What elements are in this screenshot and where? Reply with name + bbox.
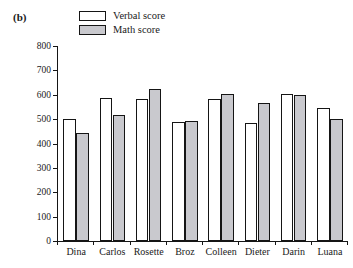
bar-math	[221, 94, 234, 241]
legend-swatch-math	[79, 25, 106, 35]
y-axis-tick	[53, 192, 57, 193]
bar-verbal	[317, 108, 330, 241]
y-axis-tick-label: 700	[37, 66, 51, 75]
legend-entry: Verbal score	[79, 9, 165, 22]
bar-verbal	[208, 99, 221, 241]
bar-verbal	[245, 123, 258, 241]
y-axis-tick-label: 800	[37, 42, 51, 51]
y-axis-tick	[53, 119, 57, 120]
bar-verbal	[281, 94, 294, 241]
legend-label: Math score	[113, 24, 160, 35]
legend-label: Verbal score	[113, 10, 165, 21]
x-axis-category-label: Broz	[175, 246, 194, 257]
bar-group	[208, 46, 234, 241]
chart-legend: Verbal scoreMath score	[79, 9, 165, 37]
bar-group	[281, 46, 307, 241]
bar-group	[63, 46, 89, 241]
figure-panel-b: (b) Verbal scoreMath score 0100200300400…	[0, 0, 353, 268]
y-axis-tick-label: 500	[37, 115, 51, 124]
y-axis-tick	[53, 144, 57, 145]
bar-verbal	[172, 122, 185, 241]
bar-group	[317, 46, 343, 241]
x-axis-category-label: Dieter	[245, 246, 270, 257]
x-axis-tick	[311, 241, 312, 245]
bar-verbal	[100, 98, 113, 241]
x-axis-tick	[130, 241, 131, 245]
x-axis-category-label: Dina	[66, 246, 85, 257]
x-axis-category-label: Darin	[282, 246, 305, 257]
y-axis-tick-label: 0	[46, 237, 51, 246]
y-axis-tick	[53, 95, 57, 96]
y-axis-tick-label: 200	[37, 188, 51, 197]
y-axis-tick	[53, 46, 57, 47]
x-axis-tick	[275, 241, 276, 245]
bar-math	[76, 133, 89, 241]
y-axis-tick-label: 300	[37, 163, 51, 172]
plot-area: 0100200300400500600700800 DinaCarlosRose…	[57, 46, 347, 241]
bar-math	[330, 119, 343, 241]
bar-math	[149, 89, 162, 241]
x-axis-category-label: Rosette	[134, 246, 164, 257]
bar-group	[245, 46, 271, 241]
bar-group	[100, 46, 126, 241]
bar-verbal	[136, 99, 149, 241]
x-axis-category-label: Luana	[317, 246, 342, 257]
y-axis-tick-label: 600	[37, 90, 51, 99]
bar-math	[185, 121, 198, 241]
bar-math	[113, 115, 126, 241]
bar-math	[258, 103, 271, 241]
y-axis-tick-label: 400	[37, 139, 51, 148]
legend-swatch-verbal	[79, 11, 106, 21]
y-axis-tick	[53, 168, 57, 169]
x-axis-category-label: Colleen	[206, 246, 237, 257]
bar-math	[294, 95, 307, 241]
bar-verbal	[63, 119, 76, 241]
panel-label: (b)	[13, 11, 26, 23]
x-axis-tick	[166, 241, 167, 245]
y-axis-tick	[53, 70, 57, 71]
x-axis-tick	[238, 241, 239, 245]
legend-entry: Math score	[79, 23, 165, 36]
x-axis-category-label: Carlos	[99, 246, 125, 257]
bar-group	[136, 46, 162, 241]
x-axis-tick	[93, 241, 94, 245]
y-axis-tick-label: 100	[37, 212, 51, 221]
x-axis-tick	[57, 241, 58, 245]
bar-group	[172, 46, 198, 241]
y-axis-tick	[53, 217, 57, 218]
y-axis-line	[57, 46, 58, 242]
x-axis-tick	[202, 241, 203, 245]
x-axis-tick	[347, 241, 348, 245]
